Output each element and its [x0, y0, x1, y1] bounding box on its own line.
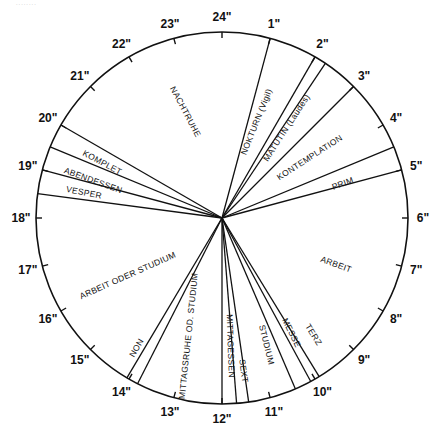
hour-tick [269, 392, 271, 398]
hour-label: 14" [112, 385, 131, 399]
hour-label: 18" [11, 211, 30, 225]
hour-label: 3" [358, 69, 370, 83]
day-schedule-clock: 24"1"2"3"4"5"6"7"8"9"10"11"12"13"14"15"1… [0, 0, 437, 443]
hour-tick [90, 345, 94, 349]
hour-tick [312, 374, 315, 379]
segment-labels: NACHTRUHENOKTURN (Vigil)MATUTIN (Laudes)… [63, 85, 355, 400]
segment-label: SEXT [237, 359, 250, 384]
hour-label: 21" [70, 69, 89, 83]
hour-tick [129, 57, 132, 62]
hour-label: 8" [390, 312, 402, 326]
hour-label: 24" [212, 10, 231, 24]
hour-label: 7" [410, 263, 422, 277]
hour-label: 16" [38, 312, 57, 326]
segment-divider [127, 218, 222, 378]
hour-label: 10" [313, 385, 332, 399]
hour-tick [378, 125, 383, 128]
hour-label: 9" [358, 353, 370, 367]
hour-tick [42, 265, 48, 267]
hour-label: 17" [18, 263, 37, 277]
hour-label: 20" [38, 111, 57, 125]
hour-tick [349, 345, 353, 349]
hour-label: 13" [160, 405, 179, 419]
hour-tick [174, 38, 176, 44]
segment-divider [138, 218, 222, 384]
hour-label: 12" [212, 412, 231, 426]
hour-label: 22" [112, 37, 131, 51]
hour-tick [396, 265, 402, 267]
hour-tick [378, 308, 383, 311]
hour-tick [174, 392, 176, 398]
hour-label: 1" [268, 17, 280, 31]
segment-label: STUDIUM [257, 324, 277, 366]
segment-label: NACHTRUHE [168, 85, 203, 139]
segment-label: PRIM [330, 175, 355, 192]
hour-label: 19" [18, 159, 37, 173]
segment-label: KONTEMPLATION [275, 132, 344, 182]
segment-divider [222, 57, 315, 218]
segment-label: MITTAGESSEN [225, 314, 237, 378]
hour-label: 2" [316, 37, 328, 51]
hour-label: 6" [417, 211, 429, 225]
hour-label: 5" [410, 159, 422, 173]
segment-divider [222, 38, 270, 218]
segment-label: MITTAGSRUHE OD. STUDIUM [177, 272, 200, 399]
segment-label: TERZ [303, 322, 324, 347]
segment-label: ARBEIT ODER STUDIUM [78, 250, 177, 302]
hour-label: 4" [390, 111, 402, 125]
hour-label: 11" [265, 405, 283, 419]
segment-label: NON [127, 337, 146, 359]
segment-label: ARBEIT [319, 254, 353, 275]
hour-label: 23" [160, 17, 179, 31]
segment-dividers [38, 38, 402, 404]
hour-label: 15" [70, 353, 89, 367]
hour-tick [90, 86, 94, 90]
hour-tick [61, 308, 66, 311]
